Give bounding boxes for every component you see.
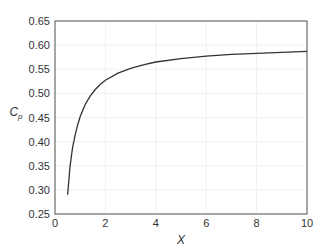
series-line-cp [68, 51, 307, 194]
x-tick-label: 4 [153, 217, 159, 229]
plot-lines [68, 51, 307, 194]
y-tick-label: 0.30 [29, 184, 50, 196]
x-axis: 0246810 [52, 217, 313, 229]
y-tick-label: 0.35 [29, 160, 50, 172]
y-tick-label: 0.55 [29, 63, 50, 75]
x-axis-label: X [176, 233, 186, 247]
y-axis-label-main: C [9, 105, 18, 119]
y-tick-label: 0.65 [29, 15, 50, 27]
y-axis: 0.250.300.350.400.450.500.550.600.65 [29, 15, 50, 220]
chart: 0.250.300.350.400.450.500.550.600.65 024… [0, 0, 324, 252]
x-tick-label: 6 [203, 217, 209, 229]
x-tick-label: 0 [52, 217, 58, 229]
x-tick-label: 2 [102, 217, 108, 229]
x-tick-label: 10 [301, 217, 313, 229]
y-axis-label: Cp [9, 105, 23, 121]
y-tick-label: 0.25 [29, 208, 50, 220]
y-tick-label: 0.45 [29, 112, 50, 124]
grid [55, 21, 307, 214]
y-tick-label: 0.60 [29, 39, 50, 51]
x-tick-label: 8 [254, 217, 260, 229]
y-axis-label-subscript: p [17, 112, 23, 121]
y-tick-label: 0.50 [29, 87, 50, 99]
y-tick-label: 0.40 [29, 136, 50, 148]
